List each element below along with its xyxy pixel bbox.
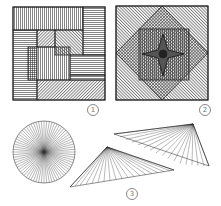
figure-1 [13,7,105,100]
radial-circle [10,118,77,185]
hatching-illustration [0,0,221,206]
figure-label-1: 1 [87,104,99,116]
figure-label-3: 3 [126,188,138,200]
figure-label-2: 2 [199,104,211,116]
fan-triangle-lower [70,147,174,187]
figure-2 [116,6,208,100]
